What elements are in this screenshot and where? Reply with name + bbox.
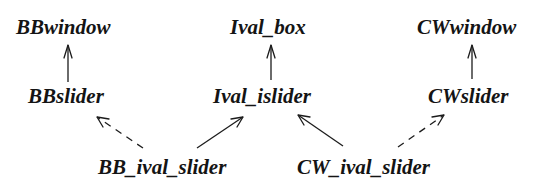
node-bbwindow: BBwindow	[15, 15, 112, 39]
node-cwwindow: CWwindow	[417, 15, 517, 39]
node-bb-ival-slider: BB_ival_slider	[97, 155, 227, 179]
node-bbslider: BBslider	[27, 84, 105, 108]
node-ival-box: Ival_box	[229, 15, 306, 39]
edge-cwslider-to-cwwindow	[468, 45, 476, 79]
edge-ival-islider-to-ival-box	[267, 45, 275, 80]
edge-bbslider-to-bbwindow	[64, 45, 72, 82]
node-cwslider: CWslider	[428, 84, 509, 108]
edge-cw-ival-slider-to-cwslider	[398, 115, 444, 147]
edge-cw-ival-slider-to-ival-islider	[298, 115, 343, 146]
edge-bb-ival-slider-to-ival-islider	[197, 117, 243, 148]
node-cw-ival-slider: CW_ival_slider	[297, 155, 431, 179]
class-hierarchy-diagram: BBwindow Ival_box CWwindow BBslider Ival…	[0, 0, 550, 194]
node-ival-islider: Ival_islider	[212, 84, 312, 108]
edge-bb-ival-slider-to-bbslider	[97, 117, 143, 148]
